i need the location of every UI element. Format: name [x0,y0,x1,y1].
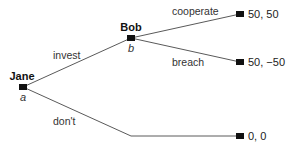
terminal-cooperate [236,11,244,17]
edge-invest [23,38,131,87]
action-label-breach: breach [172,56,204,68]
node-id-a: a [20,91,26,103]
node-jane [19,84,27,90]
terminal-breach [236,59,244,65]
payoff-breach: 50, −50 [248,56,285,68]
payoff-cooperate: 50, 50 [248,8,279,20]
edge-dont [23,87,240,136]
terminal-dont [236,133,244,139]
action-label-dont: don't [53,115,76,127]
action-label-invest: invest [53,49,81,61]
player-label-bob: Bob [120,21,142,33]
edge-cooperate [131,14,240,38]
player-label-jane: Jane [9,70,34,82]
payoff-dont: 0, 0 [248,130,266,142]
action-label-cooperate: cooperate [172,5,219,17]
node-bob [127,35,135,41]
game-tree: Jane a Bob b invest don't cooperate brea… [0,0,294,149]
node-id-b: b [128,42,134,54]
